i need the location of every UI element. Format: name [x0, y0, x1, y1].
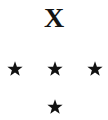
star-middle-icon [47, 61, 63, 77]
star-left-icon [7, 61, 23, 77]
image-canvas: X [0, 0, 108, 120]
star-bottom-icon [47, 99, 63, 115]
star-right-icon [87, 61, 103, 77]
letter-x-glyph: X [0, 4, 108, 32]
